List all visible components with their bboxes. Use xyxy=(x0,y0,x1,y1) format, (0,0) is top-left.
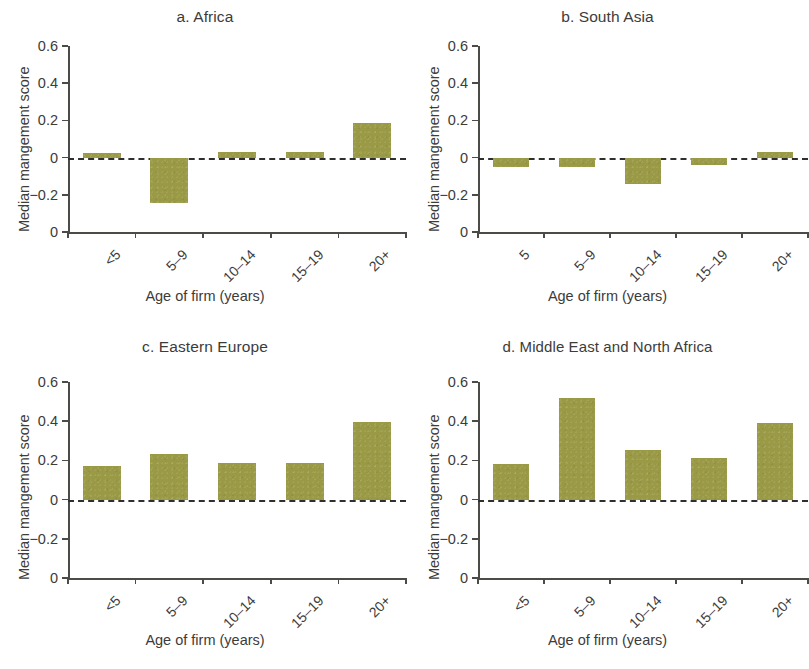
y-axis-tick-label: 0 xyxy=(422,492,468,508)
bar xyxy=(150,158,188,204)
x-axis-tick-label: 5–9 xyxy=(123,246,191,314)
x-axis-line xyxy=(68,578,406,580)
y-axis-tick-label: 0.6 xyxy=(12,38,58,54)
y-axis-tick-label: 0 xyxy=(12,492,58,508)
x-axis-tick xyxy=(405,578,407,584)
x-axis-tick xyxy=(135,578,137,584)
y-axis-tick-label: 0 xyxy=(422,150,468,166)
y-axis-tick-label: −0.2 xyxy=(12,531,58,547)
x-axis-tick xyxy=(543,232,545,238)
bar xyxy=(691,458,728,499)
panel-d-x-axis-label: Age of firm (years) xyxy=(410,632,805,648)
y-axis-tick-label: 0 xyxy=(422,570,468,586)
x-axis-tick xyxy=(543,578,545,584)
x-axis-tick-label: <5 xyxy=(465,592,533,660)
y-axis-tick xyxy=(62,460,68,462)
y-axis-tick-label: −0.2 xyxy=(422,531,468,547)
x-axis-tick-label: 20+ xyxy=(729,592,797,660)
bar xyxy=(83,466,121,499)
panel-c-plot-area: 0.60.40.20−0.20<55–910–1415–1920+ xyxy=(68,382,406,578)
x-axis-tick xyxy=(135,232,137,238)
y-axis-tick-label: 0 xyxy=(12,150,58,166)
panel-c-eastern-europe: c. Eastern Europe Median mangement score… xyxy=(0,330,410,669)
y-axis-tick xyxy=(62,538,68,540)
zero-reference-line xyxy=(68,500,406,502)
y-axis-tick-label: 0.2 xyxy=(422,112,468,128)
x-axis-tick xyxy=(338,578,340,584)
y-axis-tick xyxy=(472,194,478,196)
y-axis-tick-label: −0.2 xyxy=(12,187,58,203)
y-axis-tick xyxy=(62,381,68,383)
panel-a-plot-area: 0.60.40.20−0.20<55–910–1415–1920+ xyxy=(68,46,406,232)
x-axis-tick-label: 15–19 xyxy=(258,246,326,314)
bar xyxy=(493,158,530,167)
y-axis-tick xyxy=(62,82,68,84)
panel-b-title: b. South Asia xyxy=(410,8,805,26)
bar xyxy=(559,398,596,500)
y-axis-tick-label: 0 xyxy=(12,224,58,240)
x-axis-tick-label: 15–19 xyxy=(663,592,731,660)
bar xyxy=(218,463,256,499)
x-axis-tick xyxy=(67,578,69,584)
x-axis-tick-label: <5 xyxy=(56,246,124,314)
x-axis-tick xyxy=(67,232,69,238)
x-axis-tick-label: 15–19 xyxy=(663,246,731,314)
y-axis-tick-label: 0.2 xyxy=(12,112,58,128)
bar xyxy=(691,158,728,165)
x-axis-tick xyxy=(270,578,272,584)
x-axis-tick xyxy=(609,232,611,238)
x-axis-tick-label: 10–14 xyxy=(191,246,259,314)
x-axis-line xyxy=(68,232,406,234)
x-axis-tick-label: 10–14 xyxy=(597,592,665,660)
y-axis-line xyxy=(478,382,480,578)
x-axis-tick-label: 15–19 xyxy=(258,592,326,660)
y-axis-tick xyxy=(472,460,478,462)
zero-reference-line xyxy=(478,500,808,502)
bar xyxy=(625,158,662,184)
x-axis-tick xyxy=(675,578,677,584)
panel-a-title: a. Africa xyxy=(0,8,410,26)
y-axis-tick-label: −0.2 xyxy=(422,187,468,203)
x-axis-line xyxy=(478,578,808,580)
x-axis-tick-label: 5–9 xyxy=(531,592,599,660)
x-axis-tick xyxy=(202,578,204,584)
x-axis-tick xyxy=(202,232,204,238)
x-axis-tick xyxy=(270,232,272,238)
y-axis-tick xyxy=(62,45,68,47)
x-axis-tick-label: 5–9 xyxy=(531,246,599,314)
y-axis-tick-label: 0.6 xyxy=(422,374,468,390)
x-axis-tick xyxy=(477,232,479,238)
x-axis-tick xyxy=(675,232,677,238)
bar xyxy=(218,152,256,158)
y-axis-tick-label: 0.4 xyxy=(12,413,58,429)
y-axis-tick xyxy=(472,420,478,422)
bar xyxy=(757,423,794,499)
x-axis-tick xyxy=(741,578,743,584)
panel-b-south-asia: b. South Asia Median mangement score 0.6… xyxy=(410,0,805,330)
x-axis-tick xyxy=(405,232,407,238)
bar xyxy=(757,152,794,158)
y-axis-tick-label: 0.6 xyxy=(12,374,58,390)
y-axis-tick xyxy=(472,45,478,47)
bar xyxy=(625,450,662,500)
x-axis-tick-label: 5–9 xyxy=(123,592,191,660)
bar xyxy=(286,152,324,158)
bar xyxy=(493,464,530,499)
panel-a-africa: a. Africa Median mangement score 0.60.40… xyxy=(0,0,410,330)
y-axis-line xyxy=(68,46,70,232)
panel-b-x-axis-label: Age of firm (years) xyxy=(410,288,805,304)
panel-c-x-axis-label: Age of firm (years) xyxy=(0,632,410,648)
y-axis-tick-label: 0.4 xyxy=(422,75,468,91)
bar xyxy=(150,454,188,500)
x-axis-line xyxy=(478,232,808,234)
y-axis-tick-label: 0.6 xyxy=(422,38,468,54)
panel-d-middle-east-north-africa: d. Middle East and North Africa Median m… xyxy=(410,330,805,669)
panel-a-x-axis-label: Age of firm (years) xyxy=(0,288,410,304)
y-axis-tick-label: 0.4 xyxy=(422,413,468,429)
y-axis-tick xyxy=(472,538,478,540)
bar xyxy=(353,123,391,157)
x-axis-tick-label: 20+ xyxy=(326,246,394,314)
x-axis-tick-label: 20+ xyxy=(729,246,797,314)
panel-d-title: d. Middle East and North Africa xyxy=(410,338,805,355)
y-axis-tick xyxy=(472,120,478,122)
